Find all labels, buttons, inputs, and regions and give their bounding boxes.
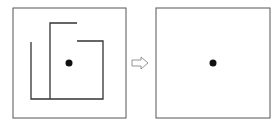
maze-wall-outer [31, 41, 103, 99]
right-panel [156, 8, 270, 118]
left-center-dot [66, 60, 73, 67]
maze-wall-inner [50, 23, 77, 99]
left-panel [13, 8, 126, 118]
right-center-dot [210, 60, 217, 67]
maze-transform-diagram [0, 0, 280, 124]
right-arrow-icon [132, 57, 148, 69]
